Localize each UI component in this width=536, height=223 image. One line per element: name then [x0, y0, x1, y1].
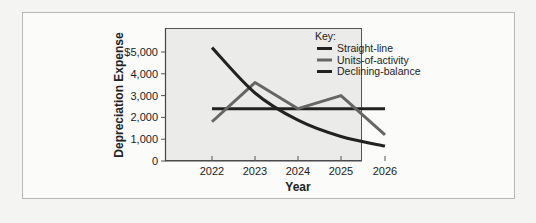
x-tick-label: 2026 [373, 165, 397, 177]
x-tick-label: 2024 [286, 165, 310, 177]
plot-area [166, 29, 362, 161]
y-tick-label: 3,000 [130, 90, 158, 102]
legend-entry: Declining-balance [337, 65, 421, 77]
legend-entry: Units-of-activity [337, 54, 410, 66]
y-tick-label: $5,000 [124, 46, 158, 58]
y-tick-label: 2,000 [130, 111, 158, 123]
y-tick-label: 0 [152, 155, 158, 167]
legend-title: Key: [315, 30, 336, 42]
legend-entry: Straight-line [337, 42, 393, 54]
y-tick-label: 4,000 [130, 68, 158, 80]
x-tick-label: 2023 [243, 165, 267, 177]
x-tick-label: 2022 [200, 165, 224, 177]
x-tick-label: 2025 [329, 165, 353, 177]
y-axis-title: Depreciation Expense [112, 32, 126, 158]
y-tick-label: 1,000 [130, 133, 158, 145]
x-axis-title: Year [285, 180, 311, 194]
figure-layer: 01,0002,0003,0004,000$5,000 202220232024… [0, 0, 536, 223]
